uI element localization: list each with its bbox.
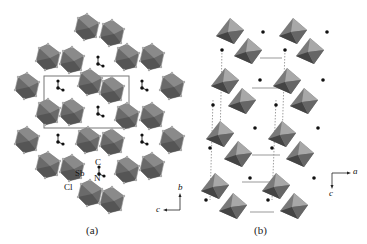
crystal-structure-a	[0, 0, 190, 244]
atom-label-cl: Cl	[64, 182, 73, 192]
atom-label-sb: Sb	[75, 168, 85, 178]
axis-label-c: c	[156, 204, 160, 214]
caption-b: (b)	[254, 224, 267, 236]
axis-label-c: c	[329, 188, 333, 198]
panel-a: Sb Cl N C b c (a)	[0, 0, 190, 244]
crystal-structure-b	[190, 0, 367, 244]
axis-label-a: a	[353, 166, 358, 176]
atom-label-n: N	[94, 173, 101, 183]
axis-label-b: b	[178, 182, 183, 192]
caption-a: (a)	[86, 224, 98, 236]
atom-label-c: C	[95, 157, 101, 167]
panel-b: a c (b)	[190, 0, 367, 244]
